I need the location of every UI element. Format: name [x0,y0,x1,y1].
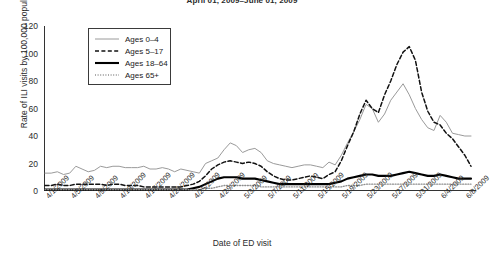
y-tick-label: 40 [29,131,38,141]
legend-label: Ages 65+ [125,71,159,80]
x-axis-title: Date of ED visit [0,238,484,248]
y-axis-tick-labels: 020406080100120 [0,26,38,191]
y-tick-label: 120 [24,21,38,31]
y-tick-label: 60 [29,104,38,114]
legend-line-swatch [94,58,120,68]
legend-item[interactable]: Ages 65+ [94,69,165,81]
x-axis-tick-labels: 4/1/20094/5/20094/9/20094/13/20094/17/20… [44,194,476,238]
legend-label: Ages 0–4 [125,35,159,44]
chart-legend: Ages 0–4Ages 5–17Ages 18–64Ages 65+ [88,28,171,85]
legend-line-swatch [94,70,120,80]
legend-item[interactable]: Ages 5–17 [94,45,165,57]
legend-item[interactable]: Ages 0–4 [94,33,165,45]
legend-label: Ages 5–17 [125,47,163,56]
chart-title: April 01, 2009–June 01, 2009 [0,0,484,5]
y-tick-label: 80 [29,76,38,86]
y-tick-label: 0 [33,186,38,196]
y-tick-label: 100 [24,49,38,59]
legend-line-swatch [94,34,120,44]
legend-line-swatch [94,46,120,56]
y-tick-label: 20 [29,159,38,169]
legend-label: Ages 18–64 [125,59,168,68]
legend-item[interactable]: Ages 18–64 [94,57,165,69]
series-line [45,84,471,175]
